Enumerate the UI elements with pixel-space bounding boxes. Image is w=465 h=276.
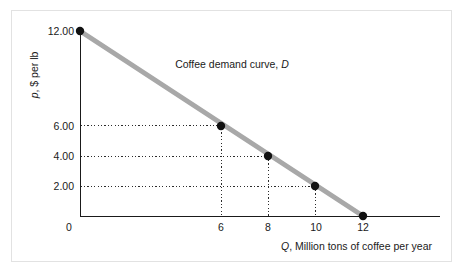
- demand-curve-plot: 12.00 6.00 4.00 2.00 0 6 8 10 12 Coffee …: [0, 0, 465, 276]
- x-tick-label-10: 10: [310, 221, 322, 233]
- x-axis-title: Q, Million tons of coffee per year: [281, 240, 432, 252]
- guide-lines: [81, 126, 316, 217]
- y-axis-title-text: , $ per lb: [28, 51, 40, 92]
- data-point-q10: [311, 182, 319, 190]
- x-tick-label-6: 6: [218, 221, 224, 233]
- curve-annotation-label: Coffee demand curve, D: [175, 58, 289, 70]
- y-tick-label-2: 2.00: [54, 180, 75, 192]
- y-tick-label-4: 4.00: [54, 150, 75, 162]
- x-axis-title-symbol: Q: [281, 240, 289, 252]
- x-tick-labels: 0 6 8 10 12: [66, 221, 369, 233]
- curve-annotation-symbol: D: [281, 58, 289, 70]
- x-tick-label-12: 12: [357, 221, 369, 233]
- data-point-q12: [359, 212, 367, 220]
- curve-annotation-prefix: Coffee demand curve,: [175, 58, 281, 70]
- data-point-q0: [76, 27, 84, 35]
- data-point-q6: [217, 122, 225, 130]
- y-tick-label-12: 12.00: [48, 25, 74, 37]
- y-tick-label-6: 6.00: [54, 120, 75, 132]
- data-point-q8: [264, 152, 272, 160]
- x-axis-title-text: , Million tons of coffee per year: [289, 240, 432, 252]
- x-tick-label-8: 8: [265, 221, 271, 233]
- x-tick-label-0: 0: [66, 221, 72, 233]
- y-tick-labels: 12.00 6.00 4.00 2.00: [48, 25, 74, 192]
- y-axis-title: p, $ per lb: [28, 51, 40, 99]
- demand-curve-figure: 12.00 6.00 4.00 2.00 0 6 8 10 12 Coffee …: [0, 0, 465, 276]
